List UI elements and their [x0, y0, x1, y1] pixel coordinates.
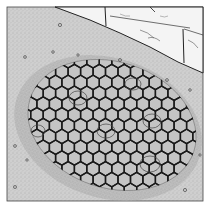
- mesh-cell: [205, 64, 210, 78]
- mesh-cell: [99, 205, 112, 207]
- mesh-cell: [25, 205, 37, 207]
- mesh-cell: [174, 205, 187, 207]
- mesh-cell: [162, 205, 175, 207]
- mesh-cell: [74, 205, 86, 207]
- mesh-cell: [205, 86, 210, 100]
- mesh-cell: [205, 172, 210, 186]
- mesh-cell: [187, 205, 200, 207]
- mesh-cell: [87, 205, 100, 207]
- illustration: [0, 0, 210, 207]
- mesh-cell: [49, 205, 62, 207]
- mesh-cell: [205, 129, 210, 143]
- mesh-cell: [12, 205, 25, 207]
- mesh-cell: [137, 205, 150, 207]
- mesh-cell: [149, 205, 161, 207]
- mesh-cell: [205, 43, 210, 57]
- mesh-cell: [112, 205, 124, 207]
- mesh-cell: [205, 151, 210, 165]
- mesh-cell: [37, 205, 50, 207]
- mesh-cell: [205, 194, 210, 207]
- mesh-cell: [199, 205, 210, 207]
- mesh-cell: [62, 205, 75, 207]
- mesh-cell: [124, 205, 137, 207]
- mesh-cell: [205, 108, 210, 122]
